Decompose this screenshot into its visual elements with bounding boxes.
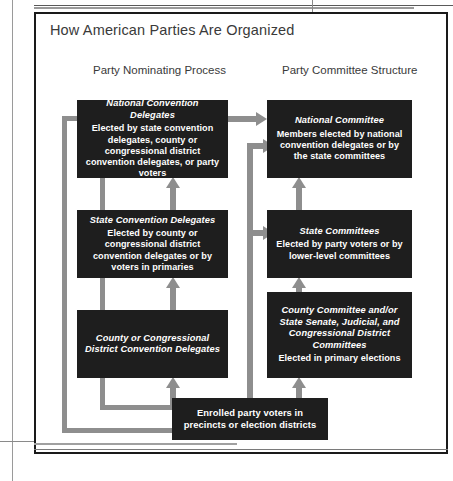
arrow-national-delegates-to-committee	[256, 112, 267, 126]
page-title: How American Parties Are Organized	[50, 22, 294, 38]
box-header: State Committees	[299, 226, 379, 238]
connector-trunk-outer-vertical	[62, 116, 67, 433]
box-body: Members elected by national convention d…	[273, 129, 406, 163]
arrow-county-to-state-committees	[292, 277, 306, 288]
box-county-committees[interactable]: County Committee and/or State Senate, Ju…	[267, 292, 412, 378]
connector-right-trunk-vertical	[247, 230, 253, 410]
box-body: Elected by party voters or by lower-leve…	[273, 239, 406, 262]
box-enrolled-party-voters[interactable]: Enrolled party voters in precincts or el…	[172, 398, 328, 440]
box-national-convention-delegates[interactable]: National Convention Delegates Elected by…	[77, 100, 228, 178]
box-header: County Committee and/or State Senate, Ju…	[273, 305, 406, 351]
box-state-convention-delegates[interactable]: State Convention Delegates Elected by co…	[77, 210, 228, 278]
box-body: Elected by county or congressional distr…	[83, 228, 222, 273]
page-edge-line	[12, 0, 13, 481]
box-body: Enrolled party voters in precincts or el…	[178, 407, 322, 431]
box-county-convention-delegates[interactable]: County or Congressional District Convent…	[77, 310, 228, 378]
box-header: National Committee	[295, 115, 384, 127]
scan-line-bottom	[34, 449, 448, 450]
scan-line-top	[34, 5, 453, 6]
scan-line-bottom-gray	[34, 443, 237, 445]
connector-county-to-state-delegates	[170, 287, 176, 310]
connector-state-to-national-committee	[296, 187, 302, 210]
arrow-county-to-state-delegates	[166, 277, 180, 288]
box-header: County or Congressional District Convent…	[83, 333, 222, 356]
box-body: Elected by state convention delegates, c…	[83, 123, 222, 179]
diagram-page: How American Parties Are Organized Party…	[0, 0, 453, 481]
box-national-committee[interactable]: National Committee Members elected by na…	[267, 100, 412, 178]
box-header: National Convention Delegates	[83, 98, 222, 121]
connector-right-trunk-to-national-committee-v	[247, 143, 253, 233]
page-edge-line-bottom	[0, 441, 34, 442]
arrow-voters-to-county-committees	[292, 377, 306, 388]
connector-voters-to-trunk-b	[62, 428, 182, 433]
column-heading-nominating: Party Nominating Process	[93, 64, 226, 76]
connector-state-to-national-delegates	[170, 187, 176, 210]
arrow-state-to-national-committee	[292, 177, 306, 188]
arrow-voters-to-county-delegates	[166, 377, 180, 388]
box-body: Elected in primary elections	[278, 353, 400, 364]
scan-line-top-gray	[34, 7, 414, 9]
column-heading-committee: Party Committee Structure	[282, 64, 417, 76]
box-state-committees[interactable]: State Committees Elected by party voters…	[267, 210, 412, 278]
box-header: State Convention Delegates	[90, 215, 216, 227]
